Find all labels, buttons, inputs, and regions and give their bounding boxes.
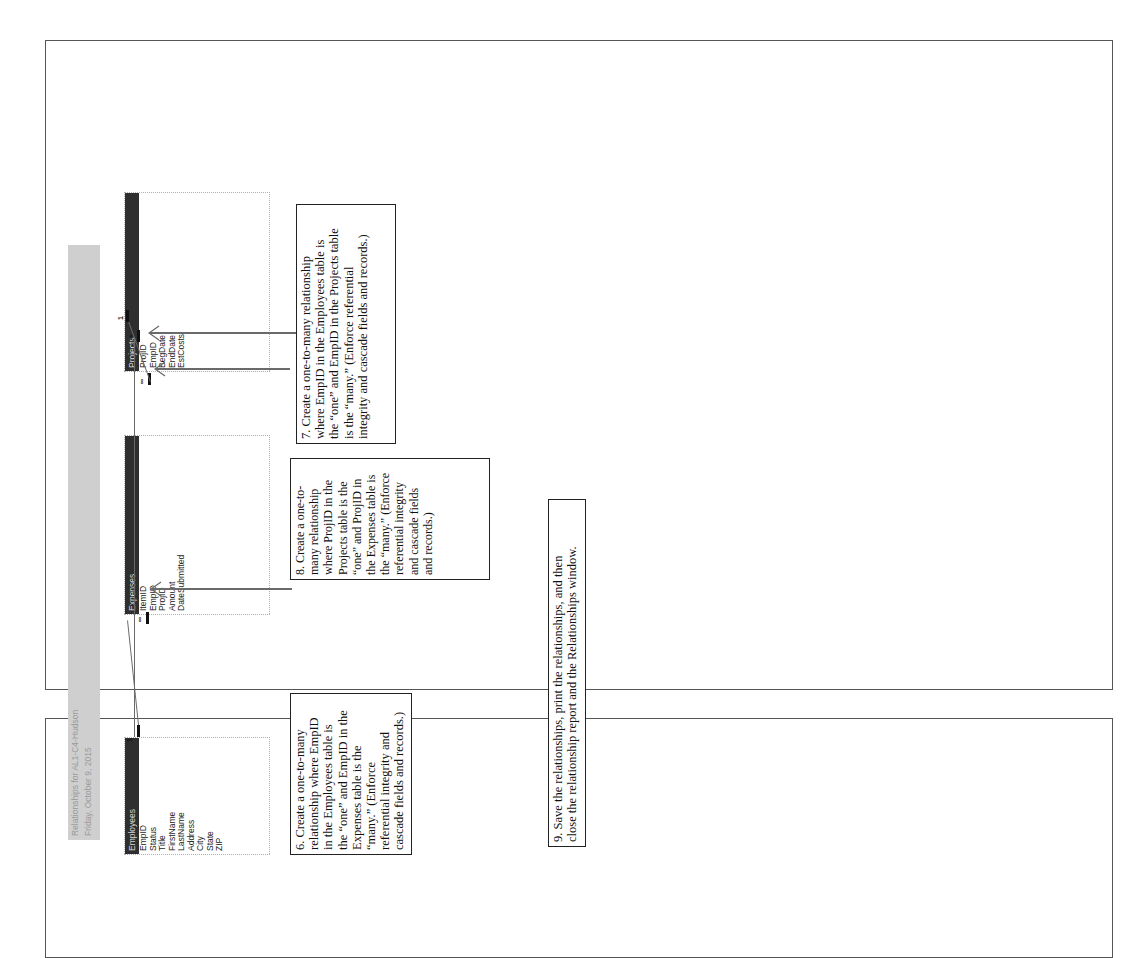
- many-marker-expenses: [146, 612, 149, 624]
- instruction-step6: 6. Create a one-to-many relationship whe…: [290, 693, 412, 855]
- rotated-relationship-report: Relationships for AL1-C4-Hudson Friday, …: [0, 2, 1143, 942]
- note-line: Projects table is the: [336, 463, 350, 575]
- note-line: 6. Create a one-to-many: [293, 698, 307, 850]
- note-line: and records.): [421, 463, 435, 575]
- note-line: 9. Save the relationships, print the rel…: [551, 504, 565, 842]
- note-line: the “many.” (Enforce: [378, 463, 392, 575]
- note-line: is the “many.” (Enforce referential: [342, 209, 356, 439]
- arrowhead-icon: [150, 581, 160, 597]
- note-line: in the Employees table is: [321, 698, 335, 850]
- note-line: “many.” (Enforce: [364, 698, 378, 850]
- callout-arrow-step6: [152, 589, 292, 591]
- one-marker-projects: [126, 310, 129, 322]
- callout-arrow-step8: [156, 369, 290, 371]
- one-symbol: 1: [126, 738, 133, 742]
- relationship-line-employees-projects[interactable]: [134, 337, 135, 737]
- field-datesubmitted[interactable]: DateSubmitted: [177, 436, 187, 614]
- report-title: Relationships for AL1-C4-Hudson: [70, 710, 81, 836]
- many-marker-projects-empid: [137, 330, 140, 342]
- instruction-step8: 8. Create a one-to- many relationship wh…: [290, 458, 490, 580]
- instruction-step9: 9. Save the relationships, print the rel…: [548, 499, 586, 847]
- note-line: where EmpID in the Employees table is: [313, 209, 327, 439]
- employees-table-title: Employees: [125, 738, 139, 854]
- employees-table[interactable]: Employees EmpID Status Title FirstName L…: [124, 737, 270, 855]
- note-line: “one” and ProjID in: [350, 463, 364, 575]
- note-line: referential integrity: [392, 463, 406, 575]
- note-line: close the relationship report and the Re…: [565, 504, 579, 842]
- note-line: the “one” and EmpID in the Projects tabl…: [327, 209, 341, 439]
- note-line: 8. Create a one-to-: [293, 463, 307, 575]
- note-line: relationship where EmpID: [307, 698, 321, 850]
- field-estcosts[interactable]: EstCosts: [177, 193, 187, 371]
- note-line: many relationship: [307, 463, 321, 575]
- one-symbol: 1: [117, 316, 124, 320]
- note-line: 7. Create a one-to-many relationship: [299, 209, 313, 439]
- field-state[interactable]: State: [206, 738, 216, 854]
- many-symbol: ∞: [127, 335, 134, 340]
- report-date: Friday, October 9, 2015: [83, 747, 94, 836]
- instruction-step7: 7. Create a one-to-many relationship whe…: [296, 204, 396, 444]
- many-symbol: ∞: [136, 617, 143, 622]
- note-line: the “one” and EmpID in the: [336, 698, 350, 850]
- note-line: cascade fields and records.): [392, 698, 406, 850]
- note-line: integrity and cascade fields and records…: [356, 209, 370, 439]
- projects-table[interactable]: Projects ProjID EmpID BegDate EndDate Es…: [124, 192, 270, 372]
- field-zip[interactable]: ZIP: [215, 738, 225, 854]
- many-symbol: ∞: [138, 379, 145, 384]
- expenses-table-title: Expenses: [125, 436, 139, 614]
- note-line: and cascade fields: [407, 463, 421, 575]
- note-line: where ProjID in the: [321, 463, 335, 575]
- note-line: the Expenses table is: [364, 463, 378, 575]
- relationship-line-employees-expenses[interactable]: [127, 620, 139, 725]
- note-line: Expenses table is the: [350, 698, 364, 850]
- one-marker-employees: [137, 725, 140, 737]
- callout-arrow-step7: [150, 333, 296, 335]
- note-line: referential integrity and: [378, 698, 392, 850]
